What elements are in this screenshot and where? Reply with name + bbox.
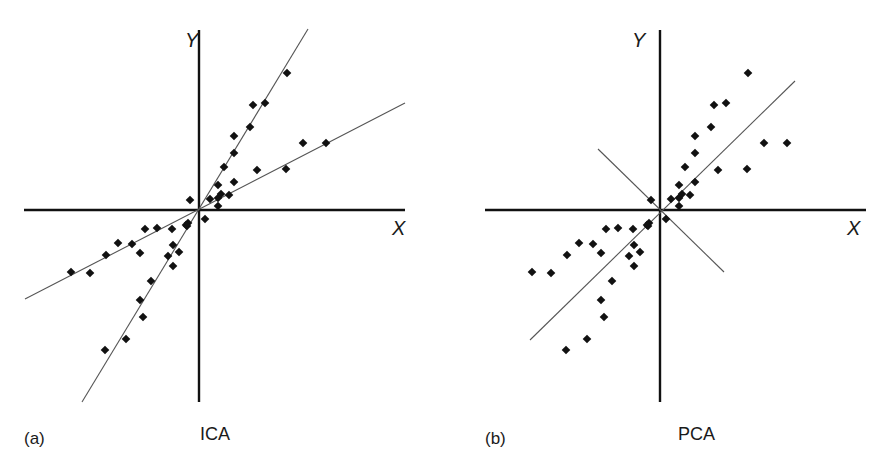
data-point-diamond bbox=[164, 252, 173, 261]
data-point-diamond bbox=[681, 163, 690, 172]
ica-direction-2-shallow-line bbox=[25, 103, 405, 299]
data-point-diamond bbox=[636, 248, 645, 257]
data-point-diamond bbox=[562, 346, 571, 355]
data-point-diamond bbox=[253, 166, 262, 175]
data-point-diamond bbox=[547, 269, 556, 278]
data-point-diamond bbox=[602, 225, 611, 234]
data-point-diamond bbox=[744, 69, 753, 78]
data-point-diamond bbox=[175, 248, 184, 257]
data-point-diamond bbox=[67, 268, 76, 277]
panel-b-label: (b) bbox=[485, 429, 506, 448]
data-point-diamond bbox=[583, 335, 592, 344]
data-point-diamond bbox=[86, 269, 95, 278]
panel-b-pca: Y X PCA (b) bbox=[485, 29, 866, 448]
data-point-diamond bbox=[629, 225, 638, 234]
data-point-diamond bbox=[283, 69, 292, 78]
data-point-diamond bbox=[201, 215, 210, 224]
data-point-diamond bbox=[102, 251, 111, 260]
data-point-diamond bbox=[136, 296, 145, 305]
data-point-diamond bbox=[153, 224, 162, 233]
data-point-diamond bbox=[686, 191, 695, 200]
data-point-diamond bbox=[230, 178, 239, 187]
data-point-diamond bbox=[128, 240, 137, 249]
data-point-diamond bbox=[139, 313, 148, 322]
data-point-diamond bbox=[101, 346, 110, 355]
data-point-diamond bbox=[322, 139, 331, 148]
data-point-diamond bbox=[783, 139, 792, 148]
data-point-diamond bbox=[114, 239, 123, 248]
data-point-diamond bbox=[743, 165, 752, 174]
panel-a-x-axis-label: X bbox=[391, 217, 406, 239]
data-point-diamond bbox=[141, 225, 150, 234]
ica-direction-1-steep-line bbox=[82, 29, 308, 402]
data-point-diamond bbox=[299, 139, 308, 148]
data-point-diamond bbox=[760, 139, 769, 148]
data-point-diamond bbox=[707, 123, 716, 132]
data-point-diamond bbox=[597, 296, 606, 305]
panel-b-y-axis-label: Y bbox=[632, 29, 647, 51]
panel-a-y-axis-label: Y bbox=[185, 29, 200, 51]
data-point-diamond bbox=[597, 249, 606, 258]
data-point-diamond bbox=[608, 277, 617, 286]
data-point-diamond bbox=[675, 181, 684, 190]
data-point-diamond bbox=[249, 101, 258, 110]
data-point-diamond bbox=[630, 262, 639, 271]
panel-a-ica-lines bbox=[25, 29, 405, 402]
data-point-diamond bbox=[563, 251, 572, 260]
data-point-diamond bbox=[722, 99, 731, 108]
data-point-diamond bbox=[169, 241, 178, 250]
panel-a-label: (a) bbox=[24, 429, 45, 448]
data-point-diamond bbox=[600, 313, 609, 322]
data-point-diamond bbox=[714, 166, 723, 175]
data-point-diamond bbox=[122, 335, 131, 344]
panel-a-ica: Y X ICA (a) bbox=[24, 29, 406, 448]
data-point-diamond bbox=[667, 195, 676, 204]
data-point-diamond bbox=[691, 132, 700, 141]
data-point-diamond bbox=[528, 268, 537, 277]
data-point-diamond bbox=[220, 163, 229, 172]
panel-a-method-label: ICA bbox=[200, 424, 230, 444]
data-point-diamond bbox=[169, 262, 178, 271]
panel-a-axes bbox=[24, 30, 405, 402]
data-point-diamond bbox=[710, 101, 719, 110]
panel-b-method-label: PCA bbox=[678, 424, 715, 444]
data-point-diamond bbox=[186, 196, 195, 205]
data-point-diamond bbox=[589, 240, 598, 249]
data-point-diamond bbox=[230, 132, 239, 141]
data-point-diamond bbox=[168, 225, 177, 234]
data-point-diamond bbox=[261, 99, 270, 108]
data-point-diamond bbox=[136, 249, 145, 258]
data-point-diamond bbox=[614, 224, 623, 233]
panel-b-x-axis-label: X bbox=[846, 217, 861, 239]
ica-vs-pca-figure: Y X ICA (a) Y X PCA (b) bbox=[0, 0, 886, 470]
data-point-diamond bbox=[575, 239, 584, 248]
data-point-diamond bbox=[691, 149, 700, 158]
panel-b-axes bbox=[485, 30, 866, 402]
data-point-diamond bbox=[691, 178, 700, 187]
data-point-diamond bbox=[625, 252, 634, 261]
data-point-diamond bbox=[662, 215, 671, 224]
